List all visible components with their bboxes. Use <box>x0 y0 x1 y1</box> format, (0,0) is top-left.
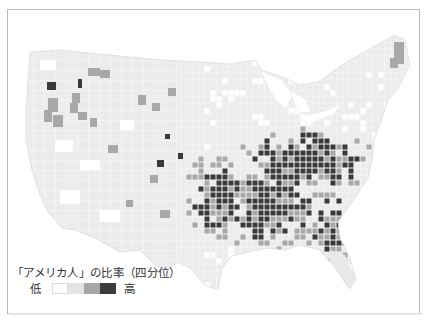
legend-swatch-q4 <box>100 283 116 294</box>
legend-swatch-q1 <box>52 283 68 294</box>
legend-swatch-q2 <box>68 283 84 294</box>
legend-low-label: 低 <box>30 280 52 296</box>
legend-title: 「アメリカ人」の比率（四分位） <box>12 264 181 280</box>
legend: 低 高 <box>30 281 135 295</box>
legend-swatch-q3 <box>84 283 100 294</box>
us-land <box>20 30 420 300</box>
legend-high-label: 高 <box>124 280 135 296</box>
